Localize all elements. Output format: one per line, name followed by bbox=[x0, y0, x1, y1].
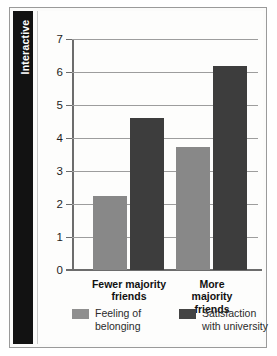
figure-frame: Interactive 7 6 5 4 3 2 bbox=[9, 7, 267, 348]
legend-item-satisfaction[interactable]: Satisfaction with university bbox=[179, 307, 272, 333]
bar-belonging-fewer[interactable] bbox=[93, 196, 127, 270]
y-tick bbox=[66, 72, 72, 73]
legend-label: Feeling of belonging bbox=[95, 307, 141, 333]
legend-label: Satisfaction with university bbox=[202, 307, 268, 333]
y-tick-label: 2 bbox=[57, 198, 63, 210]
y-tick bbox=[66, 105, 72, 106]
y-tick-label: 0 bbox=[57, 264, 63, 276]
interactive-sidebar[interactable]: Interactive bbox=[13, 11, 33, 344]
y-tick bbox=[66, 237, 72, 238]
y-tick bbox=[66, 39, 72, 40]
sidebar-label: Interactive bbox=[19, 11, 31, 83]
y-tick-label: 5 bbox=[57, 99, 63, 111]
y-tick-label: 6 bbox=[57, 66, 63, 78]
y-axis-line bbox=[72, 39, 74, 270]
y-tick-label: 7 bbox=[57, 33, 63, 45]
y-tick-label: 1 bbox=[57, 231, 63, 243]
y-tick-label: 4 bbox=[57, 132, 63, 144]
bar-satisfaction-fewer[interactable] bbox=[130, 118, 164, 270]
legend-swatch-icon bbox=[179, 309, 196, 319]
plot-area: 7 6 5 4 3 2 1 0 Fewer majority f bbox=[72, 39, 258, 270]
legend-item-belonging[interactable]: Feeling of belonging bbox=[72, 307, 165, 333]
y-tick bbox=[66, 204, 72, 205]
bar-satisfaction-more[interactable] bbox=[213, 66, 247, 270]
legend-swatch-icon bbox=[72, 309, 89, 319]
y-tick bbox=[66, 270, 72, 271]
gridline bbox=[72, 39, 258, 40]
y-tick-label: 3 bbox=[57, 165, 63, 177]
y-tick bbox=[66, 171, 72, 172]
bar-belonging-more[interactable] bbox=[176, 147, 210, 270]
chart-legend: Feeling of belonging Satisfaction with u… bbox=[72, 307, 272, 333]
x-category-label-0: Fewer majority friends bbox=[92, 278, 166, 303]
chart-panel: 7 6 5 4 3 2 1 0 Fewer majority f bbox=[37, 11, 263, 344]
y-tick bbox=[66, 138, 72, 139]
